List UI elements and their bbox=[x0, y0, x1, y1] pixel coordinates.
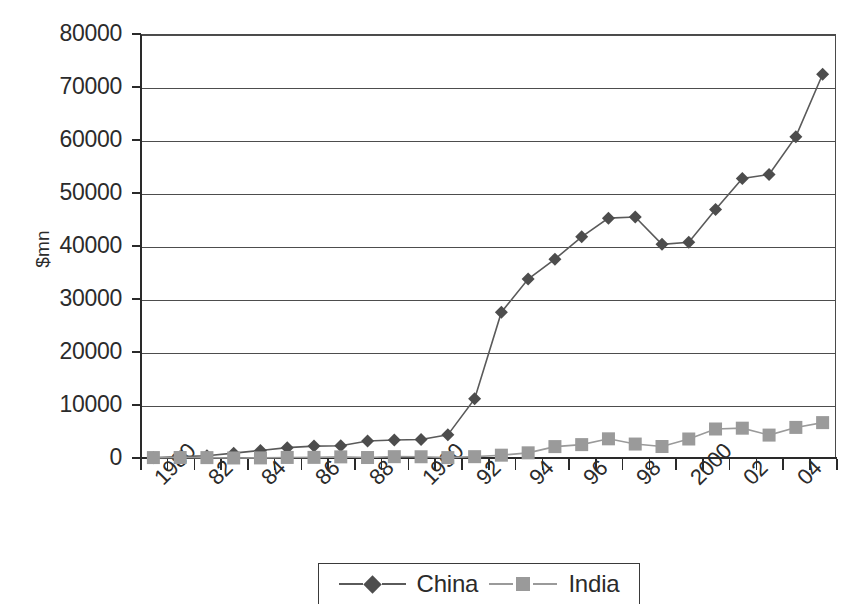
plot-area bbox=[140, 34, 836, 458]
x-axis-tick-label: 96 bbox=[578, 455, 613, 490]
y-axis-tick bbox=[132, 404, 141, 406]
y-axis-tick-label: 50000 bbox=[60, 181, 122, 204]
x-axis-tick bbox=[408, 459, 410, 470]
line-chart: $mn 010000200003000040000500006000070000… bbox=[0, 0, 841, 604]
x-axis-tick-label: 98 bbox=[631, 455, 666, 490]
gridline bbox=[142, 300, 835, 301]
x-axis-tick bbox=[301, 459, 303, 470]
y-axis-tick bbox=[132, 86, 141, 88]
y-axis-tick-labels: 0100002000030000400005000060000700008000… bbox=[0, 0, 136, 604]
gridline bbox=[142, 353, 835, 354]
legend-line bbox=[533, 583, 557, 585]
x-axis-tick bbox=[568, 459, 570, 470]
x-axis-tick bbox=[247, 459, 249, 470]
y-axis-tick-label: 80000 bbox=[60, 22, 122, 45]
legend-entry-india[interactable]: India bbox=[489, 570, 619, 598]
y-axis-tick-label: 30000 bbox=[60, 287, 122, 310]
y-axis-tick bbox=[132, 298, 141, 300]
y-axis-tick bbox=[132, 33, 141, 35]
gridline bbox=[142, 194, 835, 195]
x-axis-tick-label: 04 bbox=[792, 455, 827, 490]
square-icon bbox=[516, 577, 530, 591]
x-axis-tick-label: 84 bbox=[256, 455, 291, 490]
x-axis-tick-label: 88 bbox=[364, 455, 399, 490]
legend-label: China bbox=[417, 570, 479, 598]
legend-entry-china[interactable]: China bbox=[339, 570, 479, 598]
legend-line bbox=[489, 583, 513, 585]
y-axis-tick bbox=[132, 139, 141, 141]
y-axis-tick bbox=[132, 192, 141, 194]
x-axis-tick-label: 02 bbox=[738, 455, 773, 490]
x-axis-tick bbox=[675, 459, 677, 470]
gridline bbox=[142, 406, 835, 407]
x-axis-tick-label: 94 bbox=[524, 455, 559, 490]
x-axis-tick-label: 82 bbox=[203, 455, 238, 490]
x-axis-tick bbox=[140, 459, 142, 470]
y-axis-tick bbox=[132, 351, 141, 353]
y-axis-tick-label: 70000 bbox=[60, 75, 122, 98]
x-axis-tick bbox=[622, 459, 624, 470]
chart-legend: ChinaIndia bbox=[318, 563, 640, 604]
y-axis-tick bbox=[132, 245, 141, 247]
y-axis-tick-label: 40000 bbox=[60, 234, 122, 257]
gridline bbox=[142, 88, 835, 89]
legend-line bbox=[382, 583, 406, 585]
y-axis-tick-label: 20000 bbox=[60, 340, 122, 363]
x-axis-tick bbox=[782, 459, 784, 470]
x-axis-tick-label: 92 bbox=[471, 455, 506, 490]
y-axis-tick-label: 10000 bbox=[60, 393, 122, 416]
x-axis-tick bbox=[836, 459, 838, 470]
x-axis-tick-label: 86 bbox=[310, 455, 345, 490]
diamond-icon bbox=[363, 575, 381, 593]
gridline bbox=[142, 247, 835, 248]
gridline bbox=[142, 141, 835, 142]
legend-line bbox=[339, 583, 363, 585]
gridline bbox=[142, 35, 835, 36]
x-axis-tick bbox=[515, 459, 517, 470]
x-axis-tick bbox=[354, 459, 356, 470]
legend-label: India bbox=[568, 570, 619, 598]
y-axis-tick-label: 60000 bbox=[60, 128, 122, 151]
y-axis-tick-label: 0 bbox=[110, 446, 123, 469]
